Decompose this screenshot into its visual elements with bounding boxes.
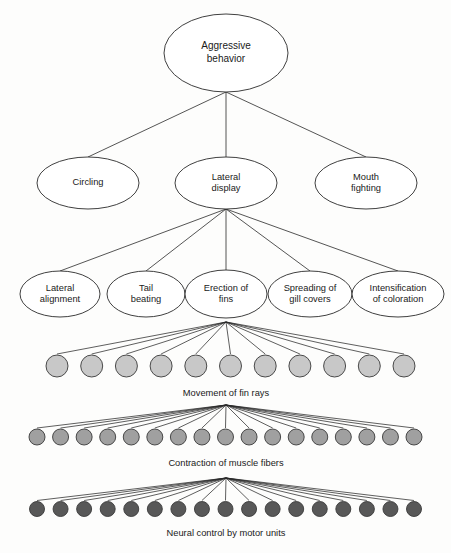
unit-circle-motor-units-row-0[interactable] bbox=[30, 502, 45, 517]
unit-circle-motor-units-row-10[interactable] bbox=[265, 502, 280, 517]
fan-line-fin-rays-row-6 bbox=[226, 322, 265, 354]
node-label-erection-of-fins: Erection of bbox=[204, 283, 249, 293]
fan-line-muscle-fibers-row-1 bbox=[61, 405, 226, 428]
fan-line-motor-units-row-8 bbox=[226, 478, 227, 501]
unit-circle-motor-units-row-11[interactable] bbox=[289, 502, 304, 517]
unit-circle-muscle-fibers-row-4[interactable] bbox=[123, 429, 139, 445]
node-label-erection-of-fins-line2: fins bbox=[219, 294, 234, 304]
node-label-mouth-fighting: Mouth bbox=[353, 172, 379, 182]
unit-circle-fin-rays-row-1[interactable] bbox=[81, 355, 103, 377]
unit-circle-motor-units-row-6[interactable] bbox=[171, 502, 186, 517]
unit-circle-motor-units-row-5[interactable] bbox=[147, 502, 162, 517]
fan-line-motor-units-row-15 bbox=[226, 478, 390, 501]
fan-line-muscle-fibers-row-16 bbox=[226, 405, 414, 428]
unit-circle-motor-units-row-2[interactable] bbox=[77, 502, 92, 517]
node-layer: AggressivebehaviorCirclingLateraldisplay… bbox=[20, 14, 444, 318]
unit-circle-fin-rays-row-6[interactable] bbox=[254, 355, 276, 377]
node-lateral-display[interactable]: Lateraldisplay bbox=[175, 157, 277, 209]
unit-circle-muscle-fibers-row-7[interactable] bbox=[194, 429, 210, 445]
fan-line-fin-rays-row-3 bbox=[161, 322, 226, 354]
node-intensification-of-coloration[interactable]: Intensificationof coloration bbox=[352, 271, 444, 317]
unit-circle-fin-rays-row-10[interactable] bbox=[393, 355, 415, 377]
unit-circle-muscle-fibers-row-0[interactable] bbox=[29, 429, 45, 445]
unit-circle-fin-rays-row-7[interactable] bbox=[289, 355, 311, 377]
fan-line-muscle-fibers-row-14 bbox=[226, 405, 367, 428]
fan-line-motor-units-row-0 bbox=[37, 478, 226, 501]
unit-circle-motor-units-row-7[interactable] bbox=[194, 502, 209, 517]
edge-aggressive-behavior-to-mouth-fighting bbox=[226, 92, 366, 157]
unit-circle-muscle-fibers-row-1[interactable] bbox=[53, 429, 69, 445]
node-label-mouth-fighting-line2: fighting bbox=[351, 183, 381, 193]
edge-lateral-display-to-tail-beating bbox=[146, 209, 226, 271]
node-label-aggressive-behavior: Aggressive bbox=[201, 40, 251, 51]
unit-circle-motor-units-row-14[interactable] bbox=[359, 502, 374, 517]
fan-line-fin-rays-row-1 bbox=[92, 322, 226, 354]
node-label-lateral-display-line2: display bbox=[212, 183, 241, 193]
fan-line-motor-units-row-3 bbox=[108, 478, 226, 501]
unit-circle-fin-rays-row-2[interactable] bbox=[115, 355, 137, 377]
unit-circle-fin-rays-row-5[interactable] bbox=[220, 355, 242, 377]
unit-circle-fin-rays-row-9[interactable] bbox=[358, 355, 380, 377]
edge-lateral-display-to-lateral-alignment bbox=[60, 209, 226, 271]
hierarchy-diagram: AggressivebehaviorCirclingLateraldisplay… bbox=[0, 0, 451, 553]
fan-line-fin-rays-row-9 bbox=[226, 322, 369, 354]
fan-line-motor-units-row-14 bbox=[226, 478, 367, 501]
edge-lateral-display-to-spreading-of-gill-covers bbox=[226, 209, 310, 271]
fan-line-fin-rays-row-5 bbox=[226, 322, 231, 354]
unit-circle-muscle-fibers-row-14[interactable] bbox=[359, 429, 375, 445]
row-label-motor-units-row: Neural control by motor units bbox=[167, 528, 286, 538]
unit-circle-muscle-fibers-row-2[interactable] bbox=[76, 429, 92, 445]
unit-circle-fin-rays-row-4[interactable] bbox=[185, 355, 207, 377]
unit-circle-fin-rays-row-8[interactable] bbox=[324, 355, 346, 377]
unit-circle-motor-units-row-16[interactable] bbox=[407, 502, 422, 517]
node-lateral-alignment[interactable]: Lateralalignment bbox=[20, 271, 100, 317]
unit-circle-muscle-fibers-row-12[interactable] bbox=[312, 429, 328, 445]
node-label-lateral-alignment: Lateral bbox=[46, 283, 74, 293]
node-label-tail-beating-line2: beating bbox=[131, 294, 162, 304]
edge-aggressive-behavior-to-circling bbox=[88, 92, 226, 157]
fan-line-motor-units-row-2 bbox=[84, 478, 226, 501]
node-label-aggressive-behavior-line2: behavior bbox=[207, 53, 246, 64]
unit-circle-muscle-fibers-row-11[interactable] bbox=[288, 429, 304, 445]
edge-lateral-display-to-intensification-of-coloration bbox=[226, 209, 398, 271]
node-label-tail-beating: Tail bbox=[139, 283, 153, 293]
unit-circle-fin-rays-row-0[interactable] bbox=[46, 355, 68, 377]
row-label-fin-rays-row: Movement of fin rays bbox=[183, 388, 270, 398]
node-label-lateral-alignment-line2: alignment bbox=[40, 294, 81, 304]
node-tail-beating[interactable]: Tailbeating bbox=[107, 271, 185, 317]
unit-circle-muscle-fibers-row-3[interactable] bbox=[100, 429, 116, 445]
unit-circle-motor-units-row-1[interactable] bbox=[53, 502, 68, 517]
unit-circle-fin-rays-row-3[interactable] bbox=[150, 355, 172, 377]
unit-circle-muscle-fibers-row-10[interactable] bbox=[265, 429, 281, 445]
unit-circle-motor-units-row-9[interactable] bbox=[242, 502, 257, 517]
diagram-canvas: AggressivebehaviorCirclingLateraldisplay… bbox=[0, 0, 451, 553]
fan-line-muscle-fibers-row-2 bbox=[84, 405, 226, 428]
unit-circle-motor-units-row-4[interactable] bbox=[124, 502, 139, 517]
unit-circle-muscle-fibers-row-16[interactable] bbox=[406, 429, 422, 445]
node-label-circling: Circling bbox=[73, 177, 104, 187]
node-spreading-of-gill-covers[interactable]: Spreading ofgill covers bbox=[268, 271, 352, 317]
unit-circle-muscle-fibers-row-13[interactable] bbox=[335, 429, 351, 445]
fan-line-motor-units-row-16 bbox=[226, 478, 414, 501]
fan-line-muscle-fibers-row-3 bbox=[108, 405, 226, 428]
fan-line-motor-units-row-1 bbox=[61, 478, 226, 501]
fan-line-muscle-fibers-row-8 bbox=[226, 405, 227, 428]
unit-circle-muscle-fibers-row-5[interactable] bbox=[147, 429, 163, 445]
unit-circle-motor-units-row-15[interactable] bbox=[383, 502, 398, 517]
node-circling[interactable]: Circling bbox=[37, 157, 139, 209]
fan-line-fin-rays-row-10 bbox=[226, 322, 404, 354]
fan-line-muscle-fibers-row-15 bbox=[226, 405, 390, 428]
node-aggressive-behavior[interactable]: Aggressivebehavior bbox=[164, 14, 288, 92]
unit-circle-muscle-fibers-row-6[interactable] bbox=[170, 429, 186, 445]
unit-circle-muscle-fibers-row-8[interactable] bbox=[218, 429, 234, 445]
node-label-intensification-of-coloration: Intensification bbox=[370, 283, 427, 293]
unit-circle-motor-units-row-8[interactable] bbox=[218, 502, 233, 517]
node-mouth-fighting[interactable]: Mouthfighting bbox=[315, 157, 417, 209]
unit-circle-motor-units-row-3[interactable] bbox=[100, 502, 115, 517]
unit-circle-motor-units-row-12[interactable] bbox=[312, 502, 327, 517]
unit-circle-muscle-fibers-row-9[interactable] bbox=[241, 429, 257, 445]
unit-circle-muscle-fibers-row-15[interactable] bbox=[382, 429, 398, 445]
node-erection-of-fins[interactable]: Erection offins bbox=[185, 270, 267, 318]
row-label-muscle-fibers-row: Contraction of muscle fibers bbox=[168, 458, 284, 468]
unit-circle-motor-units-row-13[interactable] bbox=[336, 502, 351, 517]
